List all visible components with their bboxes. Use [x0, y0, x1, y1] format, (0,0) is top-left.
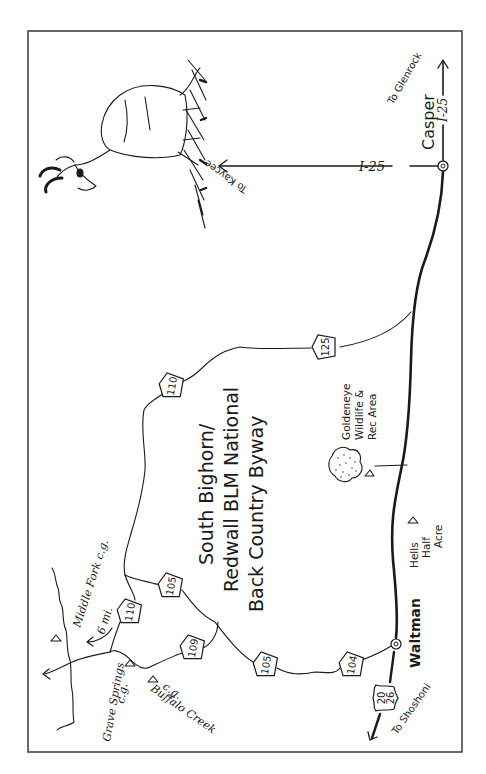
waltman-label: Waltman [407, 598, 423, 668]
route-104-shield[interactable]: 104 [337, 651, 364, 679]
svg-text:Hells: Hells [408, 542, 420, 568]
svg-text:Acre: Acre [432, 525, 444, 548]
hells-half-acre-label: Hells Half Acre [408, 525, 444, 568]
grave-springs-label: Grave Springs c.g. [100, 661, 130, 742]
svg-text:125: 125 [320, 337, 331, 356]
to-shoshoni-label: To Shoshoni [389, 681, 433, 737]
six-mile-label: 6 mi. [94, 605, 115, 636]
svg-text:c.g.: c.g. [114, 682, 130, 704]
route-105-shield-upper[interactable]: 105 [156, 572, 183, 600]
goldeneye-label: Goldeneye Wildlife & Rec Area [340, 384, 378, 440]
i25-east-label: I-25 [436, 98, 450, 123]
casper-city-marker[interactable] [438, 161, 448, 171]
svg-text:Half: Half [420, 537, 432, 558]
us-20-26-shield[interactable]: 20 26 [373, 685, 398, 711]
byway-map: I-25 To Kaycee I-25 To Glenrock Casper W… [0, 0, 486, 774]
route-110-shield-lower[interactable]: 110 [115, 598, 142, 626]
casper-label: Casper [419, 94, 438, 150]
to-glenrock-label: To Glenrock [385, 50, 424, 107]
creek-line [52, 568, 74, 730]
antelope-illustration [40, 60, 206, 228]
goldeneye-campground-icon[interactable] [365, 470, 374, 476]
interstate-25-east: I-25 [436, 60, 450, 160]
svg-text:26: 26 [385, 692, 396, 705]
byway-title: South Bighorn/ Redwall BLM National Back… [195, 387, 267, 612]
svg-text:Rec Area: Rec Area [366, 393, 378, 440]
svg-text:Goldeneye: Goldeneye [340, 384, 352, 440]
hells-half-acre-icon[interactable] [408, 517, 418, 523]
to-kaycee-label: To Kaycee [202, 158, 250, 196]
middle-fork-campground-icon[interactable] [51, 635, 61, 641]
svg-text:Back Country Byway: Back Country Byway [245, 416, 267, 612]
goldeneye-lake [329, 447, 362, 481]
route-109-shield[interactable]: 109 [178, 634, 205, 662]
svg-text:Redwall BLM National: Redwall BLM National [220, 387, 242, 592]
route-105-shield-lower[interactable]: 105 [251, 651, 278, 679]
buffalo-creek-campground-icon[interactable] [148, 676, 158, 682]
interstate-25-west: I-25 [219, 159, 440, 174]
svg-text:South Bighorn/: South Bighorn/ [195, 423, 217, 565]
svg-text:Wildlife &: Wildlife & [353, 390, 365, 440]
waltman-city-marker[interactable] [391, 639, 401, 649]
route-125-shield[interactable]: 125 [312, 335, 335, 359]
buffalo-creek-label: Buffalo Creek c.g. [147, 680, 218, 737]
i25-west-label: I-25 [358, 159, 385, 174]
